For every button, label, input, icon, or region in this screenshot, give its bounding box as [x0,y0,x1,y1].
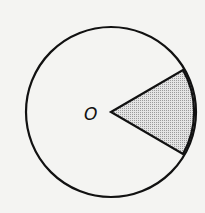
center-label: O [84,104,97,124]
shaded-sector [111,70,194,154]
diagram-canvas: O [0,0,205,213]
